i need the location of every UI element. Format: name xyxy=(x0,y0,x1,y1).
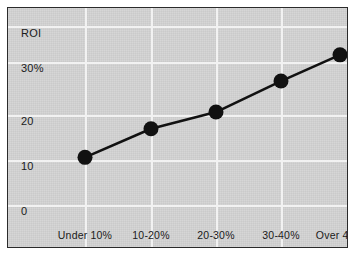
data-point-under-10 xyxy=(78,150,93,165)
data-point-20-30 xyxy=(209,105,224,120)
chart-plot-frame: ROI 30% 20 10 0 Under 10% 10-20% 20-30% … xyxy=(7,7,348,248)
data-point-30-40 xyxy=(274,74,289,89)
roi-line-chart: ROI 30% 20 10 0 Under 10% 10-20% 20-30% … xyxy=(0,0,356,262)
data-point-10-20 xyxy=(144,121,159,136)
data-point-over-40 xyxy=(333,47,348,62)
series-layer xyxy=(8,8,347,247)
roi-data-markers xyxy=(78,47,348,164)
